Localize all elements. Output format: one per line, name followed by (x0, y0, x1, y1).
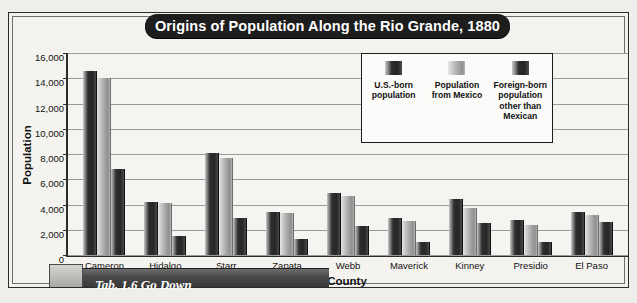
bar (158, 203, 172, 255)
bar (599, 222, 613, 255)
bar (266, 212, 280, 255)
bar (524, 225, 538, 255)
bar-group: El Paso (561, 53, 622, 255)
bar (585, 215, 599, 255)
chart-figure-frame: Origins of Population Along the Rio Gran… (8, 12, 629, 288)
bar-group: Hidalgo (135, 53, 196, 255)
x-axis-tick-label: Maverick (390, 260, 428, 271)
bar (144, 202, 158, 255)
y-axis-title: Population (21, 53, 35, 257)
light-bar-swatch (448, 61, 465, 75)
bar (463, 208, 477, 255)
bar (355, 226, 369, 255)
bar (510, 220, 524, 255)
legend-item-label: Foreign-born population other than Mexic… (491, 80, 550, 122)
bar (538, 242, 552, 255)
bar (341, 196, 355, 255)
bar (449, 199, 463, 255)
y-axis-tick-label: 6,000 (40, 180, 64, 190)
bar (205, 153, 219, 255)
bar (571, 212, 585, 255)
y-axis-tick-label: 4,000 (40, 205, 64, 215)
legend-item: Population from Mexico (425, 54, 488, 142)
chart-title: Origins of Population Along the Rio Gran… (145, 14, 510, 38)
dark-bar-swatch (385, 61, 402, 75)
y-axis-tick-label: 8,000 (40, 154, 64, 164)
x-axis-tick-label: Kinney (455, 260, 484, 271)
bar (219, 158, 233, 255)
legend-item-label: U.S.-born population (364, 80, 423, 101)
y-axis-tick-label: 2,000 (40, 230, 64, 240)
legend-item: Foreign-born population other than Mexic… (489, 54, 552, 142)
dark-bar-swatch (512, 61, 529, 75)
bar (111, 169, 125, 255)
bar (327, 193, 341, 255)
x-axis-tick-label: Webb (336, 260, 361, 271)
gridline (68, 255, 628, 256)
bar (477, 223, 491, 255)
y-axis-tick-mark (63, 255, 68, 256)
chart-legend: U.S.-born populationPopulation from Mexi… (361, 53, 553, 143)
bar (172, 236, 186, 255)
bar-group: Cameron (74, 53, 135, 255)
bar (402, 221, 416, 255)
x-axis-tick-label: Presidio (514, 260, 548, 271)
caption-tab-ornament (49, 264, 83, 287)
bar (416, 242, 430, 255)
bar-group: Starr (196, 53, 257, 255)
bar (97, 78, 111, 255)
legend-item: U.S.-born population (362, 54, 425, 142)
legend-item-label: Population from Mexico (427, 80, 486, 101)
bar (294, 239, 308, 255)
x-axis-tick-label: El Paso (575, 260, 608, 271)
bar (233, 218, 247, 255)
bar (388, 218, 402, 255)
caption-text: Tab. 1.6 Go Down (95, 277, 192, 291)
bar (280, 213, 294, 255)
y-axis-tick-label: 12,000 (35, 104, 64, 114)
y-axis-tick-label: 14,000 (35, 79, 64, 89)
y-axis-tick-label: 10,000 (35, 129, 64, 139)
bar (83, 71, 97, 255)
y-axis-tick-label: 16,000 (35, 53, 64, 63)
bar-group: Zapata (257, 53, 318, 255)
